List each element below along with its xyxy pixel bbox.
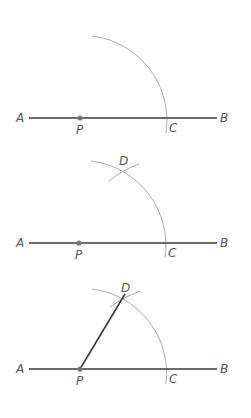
label-p: P [76, 374, 84, 388]
panel-step-1: A B P C [15, 36, 228, 137]
construction-diagram: A B P C A B P C D A B P C D [0, 0, 251, 418]
label-p: P [76, 123, 84, 137]
panel-step-3: A B P C D [15, 281, 228, 388]
point-p [77, 366, 82, 371]
point-p [76, 240, 81, 245]
label-b: B [220, 236, 228, 250]
label-p: P [75, 248, 83, 262]
label-c: C [169, 372, 178, 386]
label-d: D [119, 154, 128, 168]
label-a: A [15, 362, 24, 376]
label-a: A [15, 236, 24, 250]
segment-pd [80, 294, 125, 369]
label-b: B [220, 362, 228, 376]
label-c: C [168, 246, 177, 260]
point-p [77, 115, 82, 120]
label-b: B [220, 111, 228, 125]
panel-step-2: A B P C D [15, 154, 228, 262]
label-d: D [121, 281, 130, 295]
label-a: A [15, 111, 24, 125]
label-c: C [169, 121, 178, 135]
